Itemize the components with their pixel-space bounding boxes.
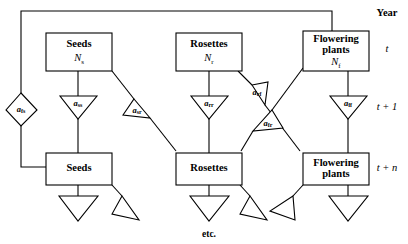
outflow-rosettes-right-triangle[interactable] xyxy=(240,196,267,220)
flowering-plants-t-n-label-line1: Flowering xyxy=(313,157,359,168)
coefficient-a-rf[interactable]: arf xyxy=(252,82,268,105)
transition-diagram: Seeds Ns Rosettes Nr Flowering plants Nf… xyxy=(0,0,408,244)
connector-asr-to-rosettes xyxy=(150,118,176,151)
flowering-plants-t-label-line2: plants xyxy=(322,44,349,55)
rosettes-t-label: Rosettes xyxy=(190,38,227,49)
outflow-flowering-down-triangle[interactable] xyxy=(329,196,368,221)
connector-afr-to-rosettes xyxy=(241,131,253,151)
connector-afs-to-seeds-bottom xyxy=(21,126,46,167)
coefficient-a-ff[interactable]: aff xyxy=(330,96,367,119)
outflow-layer xyxy=(59,196,368,221)
connector-flowering-outflow-diag xyxy=(293,185,303,196)
coefficient-a-fs[interactable]: afs xyxy=(6,93,37,126)
rosettes-t-n-label: Rosettes xyxy=(190,162,227,173)
coefficient-a-rr[interactable]: arr xyxy=(191,96,228,119)
year-label-t-plus-1: t + 1 xyxy=(377,101,398,112)
seeds-t-label: Seeds xyxy=(66,38,91,49)
stage-box-seeds-t[interactable]: Seeds Ns xyxy=(46,33,112,71)
outflow-rosettes-down-triangle[interactable] xyxy=(190,196,229,221)
connector-flowering-to-afr xyxy=(272,68,303,110)
outflow-seeds-down-triangle[interactable] xyxy=(59,196,98,221)
year-column: Year t t + 1 t + n xyxy=(377,7,398,173)
stage-box-flowering-plants-t-n[interactable]: Flowering plants xyxy=(303,153,369,185)
stage-box-seeds-t-n[interactable]: Seeds xyxy=(46,153,112,185)
year-label-t: t xyxy=(386,43,390,54)
flowering-plants-t-label-line1: Flowering xyxy=(313,33,359,44)
stage-box-flowering-plants-t[interactable]: Flowering plants Nf xyxy=(303,31,369,71)
connector-seeds-to-asr xyxy=(112,71,134,99)
stage-box-rosettes-t-n[interactable]: Rosettes xyxy=(176,153,242,185)
year-label-t-plus-n: t + n xyxy=(377,162,398,173)
seeds-t-n-label: Seeds xyxy=(66,162,91,173)
coefficient-a-fr[interactable]: afr xyxy=(253,110,283,131)
outflow-flowering-left-triangle[interactable] xyxy=(270,196,295,220)
coefficient-a-sr[interactable]: asr xyxy=(123,99,150,118)
outflow-seeds-right-triangle[interactable] xyxy=(112,196,139,220)
diagram-canvas: Seeds Ns Rosettes Nr Flowering plants Nf… xyxy=(0,0,408,244)
connector-seeds-outflow-diag xyxy=(112,185,122,196)
etc-note: etc. xyxy=(202,229,216,239)
coefficient-a-ss[interactable]: ass xyxy=(60,96,97,119)
connector-rosettes-outflow-diag xyxy=(240,185,250,196)
flowering-plants-t-n-label-line2: plants xyxy=(322,168,349,179)
connector-rosettes-to-arf xyxy=(238,71,252,85)
year-column-header: Year xyxy=(377,7,398,18)
stage-box-rosettes-t[interactable]: Rosettes Nr xyxy=(176,33,242,71)
